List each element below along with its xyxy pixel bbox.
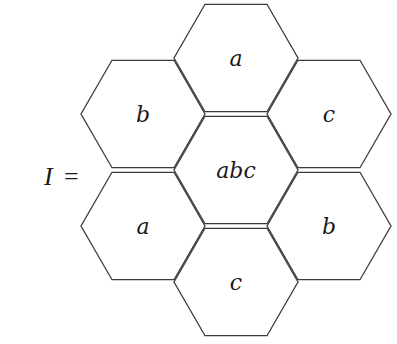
- equation-equals: =: [64, 162, 79, 191]
- hexagon-diagram: I = abcabcabc: [0, 0, 397, 344]
- hexagon-grid: abcabcabc: [81, 4, 391, 335]
- hexagon-label: b: [322, 214, 336, 239]
- hexagon-label: a: [229, 46, 242, 71]
- hexagon-label: abc: [216, 158, 256, 183]
- hexagon-label: b: [136, 102, 150, 127]
- equation-lhs: I: [43, 162, 54, 191]
- hexagon-label: c: [230, 270, 242, 295]
- hexagon-label: a: [136, 214, 149, 239]
- hexagon-label: c: [323, 102, 335, 127]
